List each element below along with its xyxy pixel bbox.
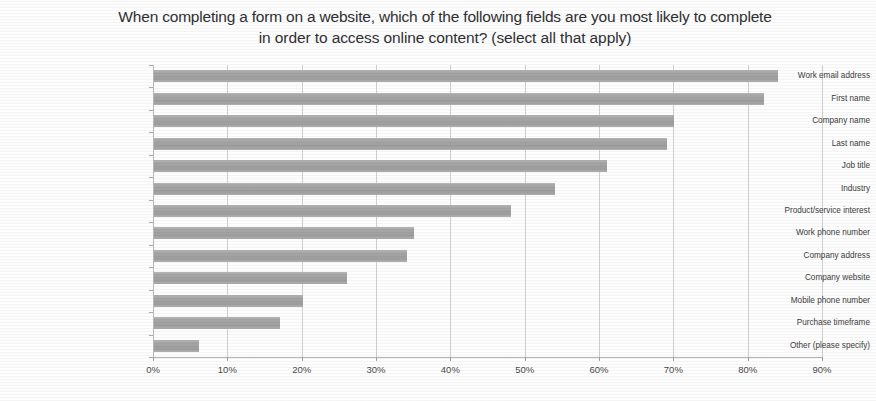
bar xyxy=(154,70,778,82)
gridline-70% xyxy=(673,65,674,357)
chart-title-line-1: When completing a form on a website, whi… xyxy=(50,6,840,27)
x-tick-mark xyxy=(525,357,526,361)
y-tick-mark xyxy=(149,312,153,313)
category-label: Work phone number xyxy=(730,228,876,238)
bar xyxy=(154,272,347,284)
x-tick-mark xyxy=(599,357,600,361)
y-tick-mark xyxy=(149,200,153,201)
category-label: Company name xyxy=(730,116,876,126)
x-tick-mark xyxy=(227,357,228,361)
x-tick-mark xyxy=(748,357,749,361)
x-tick-label: 80% xyxy=(725,364,771,375)
chart-title-line-2: in order to access online content? (sele… xyxy=(50,27,840,48)
y-tick-mark xyxy=(149,245,153,246)
category-label: Other (please specify) xyxy=(730,341,876,351)
x-tick-label: 40% xyxy=(427,364,473,375)
category-label: Job title xyxy=(730,161,876,171)
x-tick-label: 0% xyxy=(130,364,176,375)
category-label: Work email address xyxy=(730,71,876,81)
x-axis-line xyxy=(153,357,823,358)
y-tick-mark xyxy=(149,290,153,291)
x-tick-label: 50% xyxy=(502,364,548,375)
bar xyxy=(154,138,667,150)
x-tick-label: 90% xyxy=(799,364,845,375)
x-tick-mark xyxy=(153,357,154,361)
bar xyxy=(154,250,407,262)
x-tick-mark xyxy=(673,357,674,361)
y-tick-mark xyxy=(149,335,153,336)
bar xyxy=(154,183,555,195)
x-tick-mark xyxy=(822,357,823,361)
category-label: Company address xyxy=(730,251,876,261)
y-tick-mark xyxy=(149,65,153,66)
bar xyxy=(154,115,674,127)
x-tick-label: 60% xyxy=(576,364,622,375)
bar xyxy=(154,93,764,105)
category-label: First name xyxy=(730,94,876,104)
x-tick-mark xyxy=(450,357,451,361)
bar xyxy=(154,317,280,329)
chart-title: When completing a form on a website, whi… xyxy=(50,6,840,48)
category-label: Mobile phone number xyxy=(730,296,876,306)
x-tick-mark xyxy=(376,357,377,361)
bar xyxy=(154,160,607,172)
category-label: Product/service interest xyxy=(730,206,876,216)
x-tick-label: 20% xyxy=(279,364,325,375)
category-label: Company website xyxy=(730,273,876,283)
x-tick-label: 70% xyxy=(650,364,696,375)
y-tick-mark xyxy=(149,267,153,268)
y-tick-mark xyxy=(149,132,153,133)
y-tick-mark xyxy=(149,222,153,223)
category-label: Industry xyxy=(730,184,876,194)
bar xyxy=(154,227,414,239)
y-tick-mark xyxy=(149,110,153,111)
y-tick-mark xyxy=(149,155,153,156)
y-tick-mark xyxy=(149,87,153,88)
x-tick-mark xyxy=(302,357,303,361)
gridline-50% xyxy=(525,65,526,357)
category-label: Purchase timeframe xyxy=(730,318,876,328)
x-tick-label: 30% xyxy=(353,364,399,375)
x-tick-label: 10% xyxy=(204,364,250,375)
bar xyxy=(154,295,303,307)
category-label: Last name xyxy=(730,139,876,149)
bar xyxy=(154,205,511,217)
bar-chart: When completing a form on a website, whi… xyxy=(0,0,876,401)
y-tick-mark xyxy=(149,177,153,178)
bar xyxy=(154,340,199,352)
gridline-60% xyxy=(599,65,600,357)
